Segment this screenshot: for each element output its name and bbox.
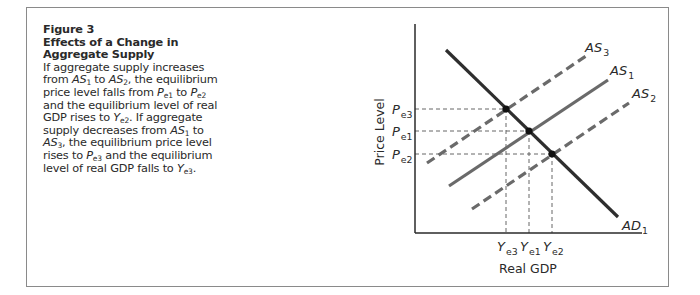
x-tick-label: Ye3 bbox=[497, 239, 518, 257]
y-axis-title: Price Level bbox=[372, 98, 387, 165]
equilibrium-point bbox=[525, 127, 532, 134]
x-tick-label: Ye1 bbox=[520, 239, 541, 257]
curve-label-as3: AS3 bbox=[584, 40, 609, 58]
y-tick-label: Pe3 bbox=[392, 102, 413, 120]
curve-label-as2: AS2 bbox=[631, 86, 656, 104]
y-tick-label: Pe2 bbox=[392, 147, 413, 165]
y-tick-label: Pe1 bbox=[392, 124, 413, 142]
equilibrium-point bbox=[502, 105, 509, 112]
as-ad-chart: AD1AS3AS1AS2Pe3Pe1Pe2Ye3Ye1Ye2Real GDPPr… bbox=[0, 0, 700, 295]
equilibrium-point bbox=[548, 150, 555, 157]
x-axis-title: Real GDP bbox=[499, 261, 557, 276]
curve-ad1 bbox=[446, 50, 618, 217]
curve-label-as1: AS1 bbox=[609, 63, 634, 81]
x-tick-label: Ye2 bbox=[543, 239, 564, 257]
